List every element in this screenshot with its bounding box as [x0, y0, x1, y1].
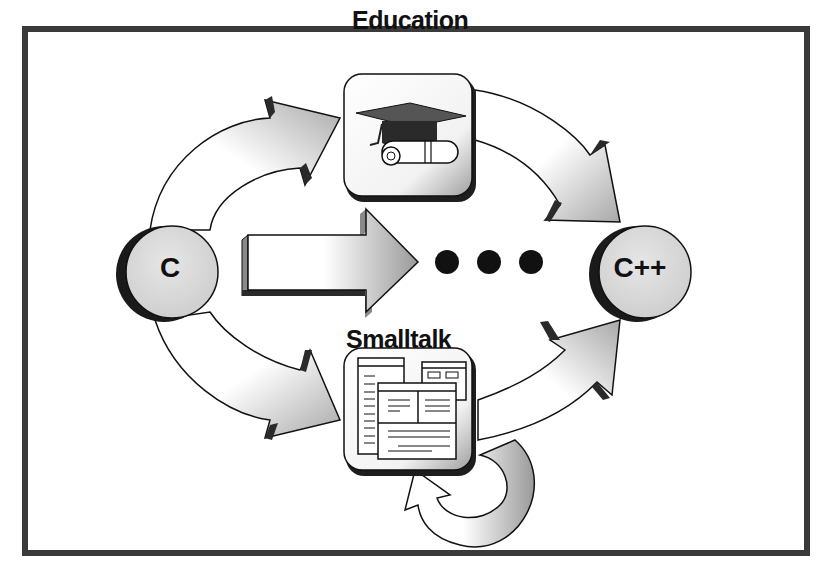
smalltalk-label: Smalltalk	[346, 325, 451, 354]
education-label: Education	[352, 6, 468, 35]
diagram-canvas	[0, 0, 832, 582]
diploma-icon	[382, 141, 458, 165]
arrow-smalltalk-to-cpp	[478, 320, 620, 440]
arrow-education-to-cpp	[475, 90, 620, 222]
smalltalk-box	[344, 348, 476, 476]
ellipsis-dots	[435, 250, 543, 274]
arrow-c-to-education	[150, 96, 340, 230]
education-box	[344, 74, 476, 202]
cpp-node-label: C++	[600, 252, 680, 284]
c-node-label: C	[140, 252, 200, 284]
arrow-c-to-smalltalk	[155, 312, 340, 440]
arrow-c-straight	[242, 209, 418, 318]
